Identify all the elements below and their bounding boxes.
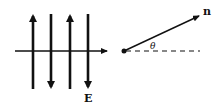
normal-vector-arrow — [124, 16, 199, 51]
angle-label-theta: θ — [150, 41, 156, 51]
vector-label-n: n — [203, 5, 211, 18]
diagram-canvas: E n θ — [0, 0, 219, 109]
field-label-E: E — [84, 92, 92, 105]
